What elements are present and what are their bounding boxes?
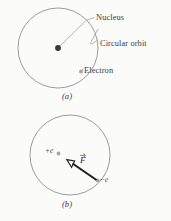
callout-label-circular-orbit: Circular orbit [100, 40, 147, 48]
panel-caption-b: (b) [62, 200, 72, 209]
force-vector-symbol: F [80, 155, 86, 165]
force-vector-arrowhead [67, 160, 75, 168]
physics-figure-bohr-atom: Nucleus Circular orbit Electron (a) +e −… [0, 0, 171, 221]
nucleus-dot [55, 45, 61, 51]
charge-label-negative: −e [100, 176, 108, 183]
force-vector-shaft [73, 164, 97, 181]
nucleus-dot-b [57, 152, 61, 156]
figure-canvas [0, 0, 171, 221]
callout-label-nucleus: Nucleus [96, 14, 124, 22]
radius-line [58, 20, 87, 48]
panel-caption-a: (a) [62, 92, 72, 101]
charge-label-positive: +e [45, 147, 53, 154]
panel-a-graphics [18, 8, 98, 88]
orbit-circle-b [30, 115, 110, 195]
force-vector-label: F [80, 156, 86, 165]
callout-label-electron: Electron [84, 67, 113, 75]
leader-nucleus [87, 18, 95, 21]
panel-b-graphics [30, 115, 110, 195]
